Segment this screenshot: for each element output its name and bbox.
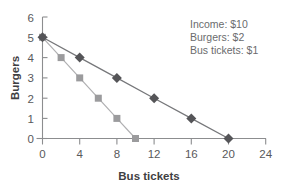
x-tick-label-16: 16 [185, 148, 198, 160]
x-tick-label-20: 20 [222, 148, 235, 160]
y-tick-label-6: 6 [28, 12, 34, 24]
annotation-bus-tickets-price: Bus tickets: $1 [190, 44, 258, 56]
x-tick-label-24: 24 [259, 148, 272, 160]
series-square-point-1 [58, 54, 65, 61]
x-tick-label-0: 0 [39, 148, 45, 160]
series-square-point-5 [132, 135, 139, 142]
chart-container: 6 5 4 3 2 1 0 0 4 8 12 16 20 24 [0, 0, 285, 186]
x-axis-title: Bus tickets [118, 170, 179, 182]
x-tick-label-12: 12 [148, 148, 161, 160]
y-axis-title: Burgers [9, 56, 21, 100]
annotation-burgers-price: Burgers: $2 [190, 31, 244, 43]
y-tick-label-4: 4 [28, 52, 35, 64]
y-tick-label-5: 5 [28, 32, 34, 44]
series-square-point-4 [113, 115, 120, 122]
y-tick-label-0: 0 [28, 133, 34, 145]
y-tick-label-2: 2 [28, 93, 34, 105]
y-tick-label-1: 1 [28, 113, 34, 125]
budget-constraint-chart: 6 5 4 3 2 1 0 0 4 8 12 16 20 24 [0, 0, 285, 186]
annotation-income: Income: $10 [190, 18, 248, 30]
series-square-point-2 [76, 74, 83, 81]
series-square-point-3 [95, 95, 102, 102]
x-tick-label-4: 4 [76, 148, 83, 160]
x-tick-label-8: 8 [114, 148, 120, 160]
y-tick-label-3: 3 [28, 72, 34, 84]
